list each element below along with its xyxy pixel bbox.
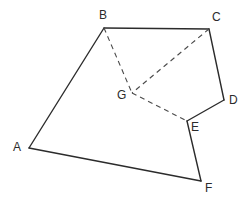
vertex-label-g: G xyxy=(117,89,126,101)
edge-C-D xyxy=(209,29,224,100)
edge-D-E xyxy=(187,100,224,121)
vertex-label-e: E xyxy=(191,121,199,133)
edge-G-E xyxy=(132,93,187,121)
vertex-label-d: D xyxy=(229,94,238,106)
vertex-label-b: B xyxy=(99,9,107,21)
edge-F-A xyxy=(29,148,201,181)
geometry-diagram: ABCDEFG xyxy=(0,0,248,203)
edge-C-G xyxy=(132,29,209,93)
dashed-edge-group xyxy=(104,28,209,121)
vertex-label-a: A xyxy=(13,141,21,153)
vertex-label-f: F xyxy=(205,182,212,194)
edge-B-C xyxy=(104,28,209,29)
vertex-label-c: C xyxy=(212,11,221,23)
edge-A-B xyxy=(29,28,104,148)
edge-B-G xyxy=(104,28,132,93)
solid-edge-group xyxy=(29,28,224,181)
